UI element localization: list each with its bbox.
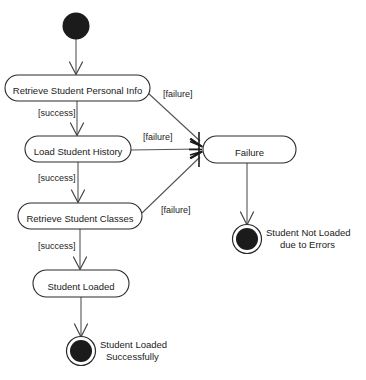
- flow-loaded-to-end-success: [75, 297, 88, 337]
- final-node-success: Student Loaded Successfully: [67, 337, 168, 366]
- final-node-error-label-line1: Student Not Loaded: [266, 227, 351, 238]
- activity-label: Retrieve Student Classes: [26, 213, 133, 224]
- guard-label-success-2: [success]: [38, 173, 76, 183]
- activity-label: Retrieve Student Personal Info: [13, 85, 142, 96]
- flow-start-to-personal-info: [70, 39, 83, 75]
- activity-load-student-history[interactable]: Load Student History: [25, 136, 131, 162]
- activity-label: Failure: [235, 147, 264, 158]
- guard-label-failure-2: [failure]: [143, 132, 173, 142]
- activity-label: Load Student History: [34, 146, 123, 157]
- guard-label-failure-1: [failure]: [163, 89, 193, 99]
- activity-retrieve-student-classes[interactable]: Retrieve Student Classes: [18, 203, 142, 229]
- guard-label-success-1: [success]: [38, 108, 76, 118]
- activity-failure[interactable]: Failure: [203, 136, 296, 163]
- uml-activity-diagram: Retrieve Student Personal Info Load Stud…: [0, 0, 366, 380]
- activity-retrieve-personal-info[interactable]: Retrieve Student Personal Info: [5, 75, 150, 101]
- guard-label-success-3: [success]: [38, 241, 76, 251]
- flow-personal-info-to-history: [71, 101, 84, 136]
- initial-node: [63, 13, 90, 40]
- final-node-error: Student Not Loaded due to Errors: [233, 225, 351, 254]
- final-node-success-label-line1: Student Loaded: [100, 339, 167, 350]
- activity-label: Student Loaded: [47, 281, 114, 292]
- final-node-error-label-line2: due to Errors: [280, 239, 335, 250]
- flow-failure-to-end-error: [241, 163, 254, 225]
- activity-student-loaded[interactable]: Student Loaded: [33, 270, 129, 297]
- activity-diagram-canvas: Retrieve Student Personal Info Load Stud…: [0, 0, 366, 380]
- guard-label-failure-3: [failure]: [161, 205, 191, 215]
- final-node-success-label-line2: Successfully: [106, 351, 159, 362]
